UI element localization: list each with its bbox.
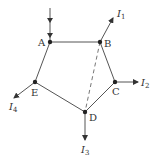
edge-d-e [35,82,85,112]
current-label-i1: I1 [116,8,125,21]
incoming-current-arrow [47,8,53,41]
node-label-e: E [31,87,38,98]
current-network-diagram: A B C D E I1 I2 I3 I4 [0,0,157,163]
node-label-c: C [112,86,120,97]
current-label-i2: I2 [140,77,149,90]
node-label-b: B [104,38,111,49]
node-label-a: A [37,37,46,48]
node-c [113,80,117,84]
current-label-i3: I3 [80,144,89,157]
node-e [33,80,37,84]
current-label-i4: I4 [8,101,18,114]
edge-b-d-dashed [85,42,100,112]
node-a [48,40,52,44]
node-label-d: D [89,112,97,123]
edge-e-a [35,42,50,82]
node-d [83,110,87,114]
node-b [98,40,102,44]
edge-c-d [85,82,115,112]
